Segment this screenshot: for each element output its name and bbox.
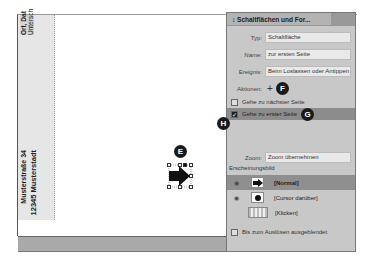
event-label: Ereignis: xyxy=(227,69,265,75)
callout-badge-e: E xyxy=(174,145,187,158)
selection-handle[interactable] xyxy=(178,185,182,189)
state-name: [Cursor darüber] xyxy=(274,195,318,201)
action-item[interactable]: Gehe zu nächster Seite xyxy=(227,96,355,108)
address-line: Musterstraße 34 xyxy=(20,150,27,204)
pasteboard-bar xyxy=(18,236,226,252)
dot-thumbnail-icon xyxy=(251,192,264,203)
eye-icon[interactable]: ◉ xyxy=(227,179,245,186)
state-rollover[interactable]: ◉ [Cursor darüber] xyxy=(227,190,355,205)
buttons-forms-panel: ↕ Schaltflächen und For... Typ: Schaltfl… xyxy=(226,12,356,252)
type-dropdown[interactable]: Schaltfläche xyxy=(265,32,351,43)
slug-text: Ort, Dat xyxy=(20,15,27,35)
name-label: Name: xyxy=(227,52,265,58)
selection-handle[interactable] xyxy=(189,185,193,189)
panel-menu-button[interactable] xyxy=(331,13,355,26)
type-label: Typ: xyxy=(227,35,265,41)
selection-handle[interactable] xyxy=(167,185,171,189)
slug-text: Untersch xyxy=(27,15,34,35)
arrow-thumbnail-icon xyxy=(251,177,264,188)
address-line: 12345 Musterstadt xyxy=(29,150,38,215)
add-action-icon[interactable]: + xyxy=(267,83,273,94)
eye-icon[interactable]: ◉ xyxy=(227,194,245,201)
state-click[interactable]: [Klicken] xyxy=(227,205,355,220)
action-label: Gehe zu erster Seite xyxy=(242,111,297,117)
panel-title: ↕ Schaltflächen und For... xyxy=(227,16,331,23)
state-normal[interactable]: ◉ [Normal] xyxy=(227,175,355,190)
name-input[interactable]: zur ersten Seite xyxy=(265,49,351,60)
callout-badge-f: F xyxy=(276,82,289,95)
empty-thumbnail-icon xyxy=(248,207,268,218)
arrow-button-shape[interactable] xyxy=(167,163,193,189)
actions-label: Aktionen: xyxy=(227,86,265,92)
action-item-selected[interactable]: ✓ Gehe zu erster Seite G xyxy=(227,108,355,120)
selection-handle[interactable] xyxy=(167,163,171,167)
selection-handle[interactable] xyxy=(178,163,182,167)
event-dropdown[interactable]: Beim Loslassen oder Antippen xyxy=(265,66,351,77)
selection-handle[interactable] xyxy=(183,163,187,167)
callout-badge-h: H xyxy=(217,117,230,130)
zoom-label: Zoom: xyxy=(227,155,265,161)
checkbox[interactable] xyxy=(231,99,238,106)
hidden-label: Bis zum Auslösen ausgeblendet xyxy=(242,229,327,235)
state-name: [Normal] xyxy=(274,180,299,186)
action-label: Gehe zu nächster Seite xyxy=(242,99,305,105)
checkbox-checked[interactable]: ✓ xyxy=(231,111,238,118)
hidden-until-triggered[interactable]: Bis zum Auslösen ausgeblendet xyxy=(227,226,355,238)
checkbox[interactable] xyxy=(231,229,238,236)
selection-handle[interactable] xyxy=(189,174,193,178)
state-name: [Klicken] xyxy=(275,210,298,216)
panel-header[interactable]: ↕ Schaltflächen und For... xyxy=(227,13,355,26)
selection-handle[interactable] xyxy=(189,163,193,167)
zoom-dropdown[interactable]: Zoom übernehmen xyxy=(265,152,351,163)
appearance-label: Erscheinungsbild xyxy=(227,165,355,175)
callout-badge-g: G xyxy=(301,108,314,121)
